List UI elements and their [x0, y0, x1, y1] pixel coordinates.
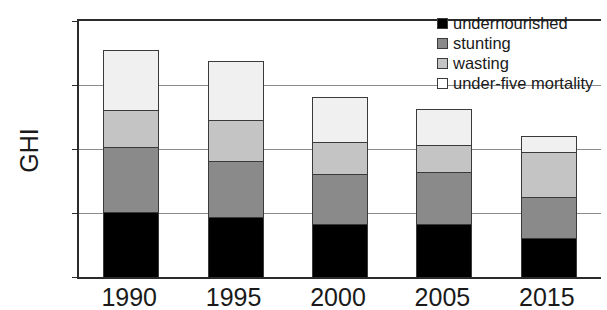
bar-segment-under-five-mortality-2015[interactable] — [522, 137, 576, 153]
legend-label-stunting: stunting — [453, 35, 511, 52]
y-axis-title: GHI — [15, 106, 44, 196]
x-tick-label-2015: 2015 — [519, 283, 575, 310]
bar-segment-undernourished-1990[interactable] — [104, 213, 158, 277]
bar-segment-stunting-2015[interactable] — [522, 198, 576, 239]
bar-group-1995 — [183, 21, 287, 277]
legend-item-under-five-mortality[interactable]: under-five mortality — [437, 74, 593, 93]
bar-segment-undernourished-1995[interactable] — [209, 218, 263, 277]
x-tick-label-2000: 2000 — [310, 283, 366, 310]
stacked-bar-2005[interactable] — [416, 109, 472, 277]
bar-segment-stunting-2005[interactable] — [417, 173, 471, 225]
y-tick-mark-30 — [72, 85, 79, 86]
legend-item-undernourished[interactable]: undernourished — [437, 14, 593, 33]
legend-label-wasting: wasting — [453, 55, 509, 72]
stacked-bar-2015[interactable] — [521, 136, 577, 277]
legend-label-under-five-mortality: under-five mortality — [453, 75, 593, 92]
bar-segment-stunting-1995[interactable] — [209, 162, 263, 218]
bar-segment-wasting-1995[interactable] — [209, 121, 263, 162]
bar-segment-undernourished-2015[interactable] — [522, 239, 576, 277]
y-tick-mark-40 — [72, 21, 79, 22]
legend-swatch-mortality-icon — [437, 78, 448, 89]
bar-group-2000 — [288, 21, 392, 277]
y-tick-mark-20 — [72, 149, 79, 150]
bar-segment-under-five-mortality-1990[interactable] — [104, 51, 158, 111]
bar-segment-stunting-1990[interactable] — [104, 148, 158, 213]
y-tick-mark-10 — [72, 213, 79, 214]
ghi-stacked-bar-chart: GHI 010203040 19901995200020052015 under… — [0, 0, 607, 310]
legend-label-undernourished: undernourished — [453, 15, 568, 32]
bar-segment-wasting-1990[interactable] — [104, 111, 158, 149]
bar-segment-undernourished-2005[interactable] — [417, 225, 471, 277]
legend-swatch-stunting-icon — [437, 38, 448, 49]
legend-swatch-undernourished-icon — [437, 18, 448, 29]
x-tick-label-2005: 2005 — [415, 283, 471, 310]
bar-segment-under-five-mortality-1995[interactable] — [209, 62, 263, 121]
stacked-bar-1995[interactable] — [208, 61, 264, 277]
bar-segment-under-five-mortality-2000[interactable] — [313, 98, 367, 143]
legend-item-stunting[interactable]: stunting — [437, 34, 593, 53]
stacked-bar-1990[interactable] — [103, 50, 159, 277]
legend-item-wasting[interactable]: wasting — [437, 54, 593, 73]
bar-segment-wasting-2005[interactable] — [417, 146, 471, 173]
bar-segment-undernourished-2000[interactable] — [313, 225, 367, 277]
bar-segment-under-five-mortality-2005[interactable] — [417, 110, 471, 146]
x-tick-label-1995: 1995 — [206, 283, 262, 310]
y-tick-mark-0 — [72, 277, 79, 278]
bar-group-1990 — [79, 21, 183, 277]
bar-segment-wasting-2015[interactable] — [522, 153, 576, 197]
bar-segment-stunting-2000[interactable] — [313, 175, 367, 225]
x-tick-label-1990: 1990 — [101, 283, 157, 310]
bar-segment-wasting-2000[interactable] — [313, 143, 367, 175]
stacked-bar-2000[interactable] — [312, 97, 368, 277]
legend-swatch-wasting-icon — [437, 58, 448, 69]
chart-legend: undernourishedstuntingwastingunder-five … — [437, 14, 593, 93]
